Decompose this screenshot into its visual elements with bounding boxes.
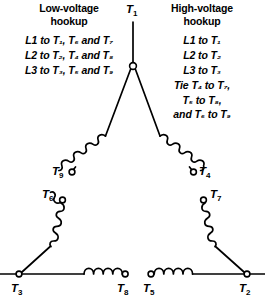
leg-apex-to-right-coil: [136, 70, 161, 137]
terminal-label-t6-sub: 6: [49, 194, 53, 203]
terminal-label-t3: T3: [11, 283, 22, 297]
coil-t7-helix: [202, 203, 216, 247]
terminal-label-t7-letter: T: [210, 188, 217, 200]
coil-t4-upper-right: [160, 135, 204, 171]
leg-apex-to-left-coil: [106, 70, 131, 137]
coil-t9-upper-left: [59, 135, 106, 171]
terminal-label-t1: T1: [126, 4, 137, 18]
coil-t6-helix: [50, 203, 64, 247]
terminal-label-t8-sub: 8: [124, 288, 128, 297]
terminal-label-t4-sub: 4: [206, 171, 210, 180]
terminal-label-t9-letter: T: [52, 165, 59, 177]
terminal-node-t1-apex: [130, 63, 137, 70]
coil-t5-bottom-right: [154, 268, 192, 274]
terminal-node-t4: [191, 169, 197, 175]
terminal-label-t6-letter: T: [42, 188, 49, 200]
terminal-label-t1-sub: 1: [133, 9, 137, 18]
terminal-label-t3-sub: 3: [18, 288, 22, 297]
terminal-node-t9: [69, 169, 75, 175]
delta-schematic-drawing: [0, 0, 265, 302]
wye-delta-hookup-diagram: Low-voltage hookup L1 to T₁, T₆ and T₇ L…: [0, 0, 265, 302]
terminal-label-t2-sub: 2: [246, 288, 250, 297]
terminal-label-t1-letter: T: [126, 3, 133, 15]
terminal-label-t7-sub: 7: [217, 194, 221, 203]
terminal-label-t6: T6: [42, 189, 53, 203]
terminal-label-t5: T5: [143, 283, 154, 297]
terminal-node-t2: [244, 271, 250, 277]
terminal-label-t8: T8: [117, 283, 128, 297]
leg-left-coil-to-t3: [22, 247, 50, 273]
terminal-label-t9-sub: 9: [59, 171, 63, 180]
coil-t8-bottom-left: [84, 268, 122, 274]
terminal-node-t7: [201, 197, 207, 203]
terminal-label-t5-letter: T: [143, 282, 150, 294]
terminal-node-t5: [148, 271, 154, 277]
terminal-label-t4-letter: T: [199, 165, 206, 177]
terminal-label-t4: T4: [199, 166, 210, 180]
terminal-label-t9: T9: [52, 166, 63, 180]
terminal-node-t3: [16, 271, 22, 277]
terminal-label-t7: T7: [210, 189, 221, 203]
terminal-label-t2: T2: [239, 283, 250, 297]
terminal-label-t2-letter: T: [239, 282, 246, 294]
terminal-label-t5-sub: 5: [150, 288, 154, 297]
terminal-node-t8: [122, 271, 128, 277]
terminal-label-t3-letter: T: [11, 282, 18, 294]
terminal-label-t8-letter: T: [117, 282, 124, 294]
leg-right-coil-to-t2: [216, 247, 245, 273]
